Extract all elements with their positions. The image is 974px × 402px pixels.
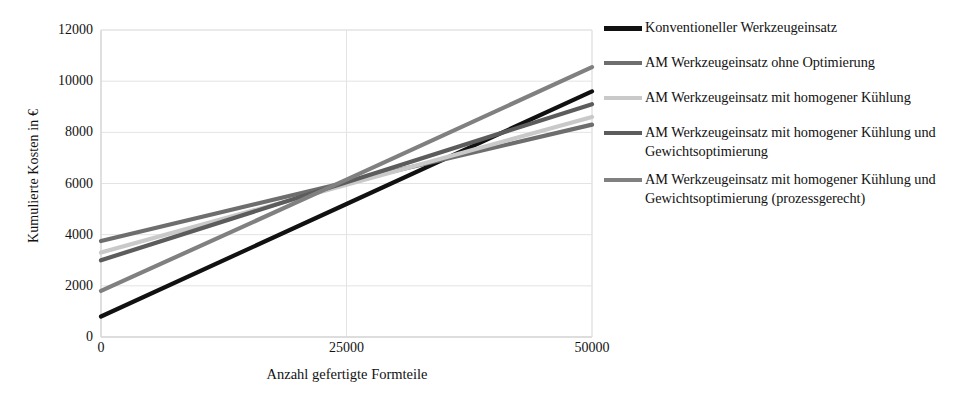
chart-figure: Kumulierte Kosten in € 02000400060008000…: [0, 0, 974, 402]
legend-item-label: AM Werkzeugeinsatz ohne Optimierung: [645, 53, 875, 72]
legend-color-swatch: [604, 178, 642, 182]
legend-color-swatch: [604, 96, 642, 100]
legend-item-label: AM Werkzeugeinsatz mit homogener Kühlung…: [645, 170, 970, 208]
chart-legend: Konventioneller WerkzeugeinsatzAM Werkze…: [604, 18, 970, 216]
legend-item-label: Konventioneller Werkzeugeinsatz: [645, 18, 837, 37]
legend-color-swatch: [604, 26, 642, 31]
legend-color-swatch: [604, 131, 642, 135]
legend-item-5[interactable]: AM Werkzeugeinsatz mit homogener Kühlung…: [604, 170, 970, 208]
line-chart-canvas: [0, 0, 600, 402]
legend-item-3[interactable]: AM Werkzeugeinsatz mit homogener Kühlung: [604, 88, 970, 114]
legend-item-2[interactable]: AM Werkzeugeinsatz ohne Optimierung: [604, 53, 970, 79]
legend-item-label: AM Werkzeugeinsatz mit homogener Kühlung: [645, 88, 911, 107]
legend-item-4[interactable]: AM Werkzeugeinsatz mit homogener Kühlung…: [604, 123, 970, 161]
plot-area-wrapper: Kumulierte Kosten in € 02000400060008000…: [0, 0, 600, 402]
legend-item-1[interactable]: Konventioneller Werkzeugeinsatz: [604, 18, 970, 44]
legend-color-swatch: [604, 61, 642, 65]
legend-item-label: AM Werkzeugeinsatz mit homogener Kühlung…: [645, 123, 970, 161]
